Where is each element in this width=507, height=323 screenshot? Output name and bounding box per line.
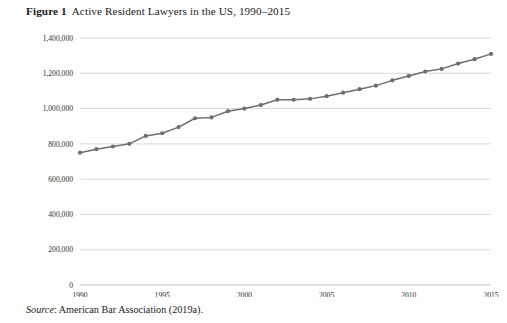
data-point-marker — [374, 84, 378, 88]
data-point-marker — [177, 125, 181, 129]
y-axis-tick-label: 1,000,000 — [43, 104, 74, 113]
data-point-marker — [160, 131, 164, 135]
y-axis-tick-label: 1,400,000 — [43, 34, 74, 43]
data-point-marker — [357, 87, 361, 91]
x-axis-tick-labels: 199019952000200520102015 — [72, 291, 498, 297]
x-axis-tick-label: 2015 — [483, 291, 498, 297]
data-point-marker — [275, 98, 279, 102]
source-citation: : American Bar Association (2019a). — [54, 304, 203, 315]
x-axis-tick-label: 2005 — [319, 291, 334, 297]
data-point-marker — [226, 109, 230, 113]
data-point-marker — [209, 115, 213, 119]
data-point-marker — [78, 151, 82, 155]
y-axis-tick-label: 600,000 — [48, 175, 73, 184]
y-axis-tick-label: 400,000 — [48, 210, 73, 219]
line-chart-svg: 0200,000400,000600,000800,0001,000,0001,… — [0, 22, 507, 297]
data-point-marker — [127, 142, 131, 146]
source-label: Source — [26, 304, 54, 315]
y-axis-tick-label: 1,200,000 — [43, 69, 74, 78]
figure-container: Figure 1Active Resident Lawyers in the U… — [0, 0, 507, 323]
data-point-marker — [390, 78, 394, 82]
data-point-marker — [259, 103, 263, 107]
y-axis-tick-label: 200,000 — [48, 245, 73, 254]
figure-number: Figure 1 — [26, 5, 67, 17]
data-point-marker — [325, 94, 329, 98]
data-point-marker — [472, 57, 476, 61]
data-point-marker — [440, 67, 444, 71]
data-point-marker — [456, 61, 460, 65]
data-point-marker — [242, 106, 246, 110]
x-axis-tick-label: 1995 — [155, 291, 170, 297]
y-axis-tick-label: 0 — [69, 281, 73, 290]
data-point-marker — [308, 97, 312, 101]
y-axis-tick-label: 800,000 — [48, 140, 73, 149]
data-point-marker — [111, 144, 115, 148]
data-point-marker — [423, 69, 427, 73]
figure-title: Figure 1Active Resident Lawyers in the U… — [26, 4, 290, 18]
series-line-active-resident-lawyers — [80, 54, 491, 153]
x-axis-tick-label: 1990 — [72, 291, 87, 297]
y-axis-tick-labels: 0200,000400,000600,000800,0001,000,0001,… — [43, 34, 74, 290]
gridlines-group — [80, 38, 491, 285]
x-axis-tick-label: 2010 — [401, 291, 416, 297]
data-point-marker — [193, 116, 197, 120]
data-point-marker — [94, 147, 98, 151]
data-point-marker — [292, 98, 296, 102]
data-point-marker — [489, 52, 493, 56]
data-point-marker — [341, 91, 345, 95]
x-axis-tick-label: 2000 — [237, 291, 252, 297]
figure-caption: Active Resident Lawyers in the US, 1990–… — [72, 5, 290, 17]
data-point-marker — [407, 74, 411, 78]
source-note: Source: American Bar Association (2019a)… — [26, 303, 203, 316]
chart-plot-area: 0200,000400,000600,000800,0001,000,0001,… — [0, 22, 507, 297]
data-point-marker — [144, 134, 148, 138]
